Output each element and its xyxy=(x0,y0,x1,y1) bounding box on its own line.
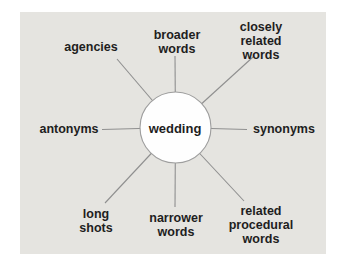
node-label-closely-related-words: closely related words xyxy=(229,20,294,62)
node-label-agencies: agencies xyxy=(64,40,118,54)
node-label-related-procedural-words: related procedural words xyxy=(229,204,294,246)
node-label-broader-words: broader words xyxy=(154,28,201,56)
screenshot-root: agencies broader words closely related w… xyxy=(0,0,344,267)
node-label-long-shots: long shots xyxy=(79,207,112,235)
node-label-synonyms: synonyms xyxy=(253,122,315,136)
node-label-narrower-words: narrower words xyxy=(149,211,203,239)
node-label-antonyms: antonyms xyxy=(39,122,98,136)
diagram-panel: agencies broader words closely related w… xyxy=(20,12,326,254)
center-node-label: wedding xyxy=(149,121,202,136)
